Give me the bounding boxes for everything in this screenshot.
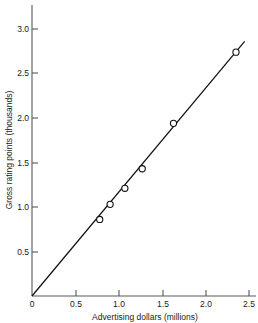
data-point — [122, 185, 128, 191]
y-axis-ticks — [32, 29, 38, 252]
x-tick-label-1-5: 1.5 — [157, 299, 169, 309]
fit-line — [32, 41, 245, 296]
x-axis-title: Advertising dollars (millions) — [92, 312, 198, 322]
data-point — [97, 216, 103, 222]
x-tick-label-0: 0 — [30, 299, 35, 309]
y-tick-label-2-0: 2.0 — [17, 113, 29, 123]
scatter-plot: 3.0 2.5 2.0 1.5 1.0 0.5 0 0.5 1.0 1.5 2.… — [0, 0, 258, 323]
data-point — [170, 120, 176, 126]
y-tick-label-2-5: 2.5 — [17, 68, 29, 78]
y-tick-label-0-5: 0.5 — [17, 247, 29, 257]
data-point — [107, 201, 113, 207]
y-tick-label-3-0: 3.0 — [17, 24, 29, 34]
data-point — [233, 49, 239, 55]
x-tick-label-2-0: 2.0 — [200, 299, 212, 309]
data-points-group — [97, 49, 239, 223]
data-point — [139, 166, 145, 172]
x-axis-ticks — [76, 290, 249, 296]
x-tick-label-1-0: 1.0 — [113, 299, 125, 309]
chart-figure: 3.0 2.5 2.0 1.5 1.0 0.5 0 0.5 1.0 1.5 2.… — [0, 0, 258, 323]
x-tick-label-2-5: 2.5 — [243, 299, 255, 309]
y-tick-label-1-0: 1.0 — [17, 202, 29, 212]
y-axis-title: Gross rating points (thousands) — [4, 91, 14, 210]
x-tick-label-0-5: 0.5 — [70, 299, 82, 309]
y-tick-label-1-5: 1.5 — [17, 158, 29, 168]
